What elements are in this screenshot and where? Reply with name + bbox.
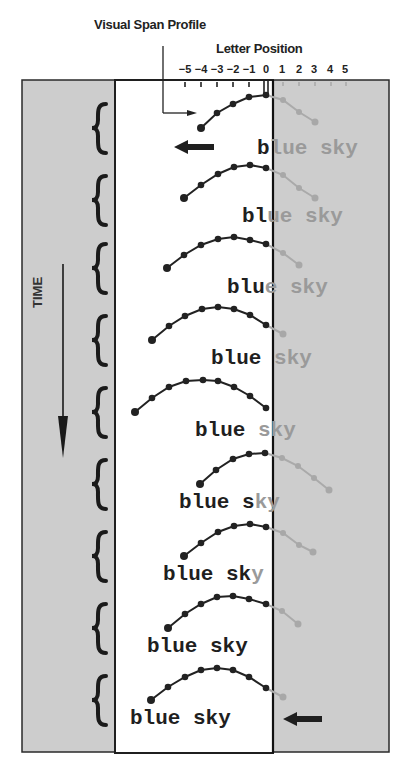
text-row-6: blue sky xyxy=(179,492,280,513)
tick-label: 3 xyxy=(311,63,317,75)
text-row-7: blue sky xyxy=(163,564,264,585)
text-row-4: blue sky xyxy=(211,348,312,369)
tick-label: −3 xyxy=(211,63,224,75)
visual-span-profile-label: Visual Span Profile xyxy=(94,17,206,32)
text-row-8: blue sky xyxy=(147,636,248,657)
text-row-5: blue sky xyxy=(195,420,296,441)
letter-position-label: Letter Position xyxy=(216,41,303,56)
text-row-2: blue sky xyxy=(242,206,343,227)
tick-label: −4 xyxy=(195,63,208,75)
tick-label: 0 xyxy=(263,63,269,75)
tick-label: −5 xyxy=(179,63,192,75)
tick-label: 5 xyxy=(342,63,348,75)
text-row-3: blue sky xyxy=(227,277,328,298)
tick-label: 2 xyxy=(296,63,302,75)
visual-span-figure: Visual Span Profile Letter Position −5 −… xyxy=(0,0,409,761)
tick-label: 1 xyxy=(279,63,285,75)
text-row-1: blue sky xyxy=(257,138,358,159)
time-label: TIME xyxy=(30,277,45,308)
tick-label: 4 xyxy=(327,63,333,75)
tick-label: −1 xyxy=(243,63,256,75)
tick-label: −2 xyxy=(227,63,240,75)
text-row-9: blue sky xyxy=(130,708,231,729)
